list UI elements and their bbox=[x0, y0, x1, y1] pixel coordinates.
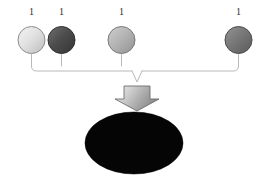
brace-connector bbox=[32, 54, 239, 82]
connector-rail-right bbox=[142, 66, 239, 71]
connector-v-junction bbox=[132, 71, 142, 82]
diagram-graphics bbox=[0, 0, 269, 180]
node-circle-3[interactable] bbox=[108, 27, 135, 54]
result-ellipse bbox=[85, 112, 183, 174]
node-circle-4[interactable] bbox=[225, 27, 252, 54]
node-label-4: 1 bbox=[229, 7, 249, 17]
connector-rail-left bbox=[32, 66, 133, 71]
down-arrow bbox=[115, 86, 159, 111]
node-circle-2[interactable] bbox=[48, 27, 75, 54]
node-label-1: 1 bbox=[22, 7, 42, 17]
diagram-canvas: 1 1 1 1 bbox=[0, 0, 269, 180]
node-label-2: 1 bbox=[52, 7, 72, 17]
node-label-3: 1 bbox=[112, 7, 132, 17]
node-circle-1[interactable] bbox=[18, 27, 45, 54]
